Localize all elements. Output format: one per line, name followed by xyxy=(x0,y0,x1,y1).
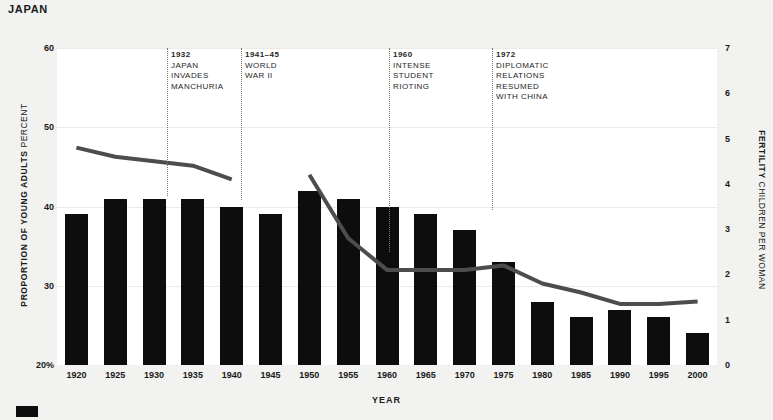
x-tick-1925: 1925 xyxy=(105,370,125,380)
y-tick-left-50: 50 xyxy=(12,122,54,132)
event-marker-1960 xyxy=(389,48,390,252)
x-tick-1940: 1940 xyxy=(222,370,242,380)
event-text: WORLD WAR II xyxy=(245,61,277,81)
y-tick-right-0: 0 xyxy=(725,360,745,370)
x-tick-1990: 1990 xyxy=(610,370,630,380)
x-tick-1950: 1950 xyxy=(299,370,319,380)
y-axis-right-title: FERTILITY CHILDREN PER WOMAN xyxy=(757,85,767,335)
y-tick-right-4: 4 xyxy=(725,179,745,189)
fertility-line-segment-postwar xyxy=(309,175,697,304)
x-tick-2000: 2000 xyxy=(688,370,708,380)
fertility-line-series xyxy=(57,48,717,365)
y-tick-right-6: 6 xyxy=(725,88,745,98)
x-axis-title: YEAR xyxy=(0,395,773,405)
x-tick-1960: 1960 xyxy=(377,370,397,380)
plot-area xyxy=(57,48,717,365)
x-tick-1920: 1920 xyxy=(66,370,86,380)
event-marker-1932 xyxy=(167,48,168,196)
y-axis-right-title-main: FERTILITY xyxy=(757,130,767,178)
x-tick-1995: 1995 xyxy=(649,370,669,380)
x-tick-1930: 1930 xyxy=(144,370,164,380)
fertility-line-segment-prewar xyxy=(76,148,231,180)
y-tick-left-40: 40 xyxy=(12,202,54,212)
event-year: 1941–45 xyxy=(245,50,279,61)
event-label-1932: 1932JAPAN INVADES MANCHURIA xyxy=(171,50,224,92)
event-marker-1941 xyxy=(241,48,242,200)
event-label-1960: 1960INTENSE STUDENT RIOTING xyxy=(393,50,434,92)
event-label-1972: 1972DIPLOMATIC RELATIONS RESUMED WITH CH… xyxy=(496,50,549,103)
y-tick-right-1: 1 xyxy=(725,315,745,325)
event-label-1941: 1941–45WORLD WAR II xyxy=(245,50,279,82)
x-tick-1945: 1945 xyxy=(261,370,281,380)
event-text: JAPAN INVADES MANCHURIA xyxy=(171,61,224,91)
y-tick-left-60: 60 xyxy=(12,43,54,53)
page-title: JAPAN xyxy=(8,3,48,15)
chart-root: JAPAN PROPORTION OF YOUNG ADULTS PERCENT… xyxy=(0,0,773,420)
y-axis-right-title-sub: CHILDREN PER WOMAN xyxy=(757,182,767,290)
x-tick-1965: 1965 xyxy=(416,370,436,380)
event-year: 1932 xyxy=(171,50,224,61)
event-year: 1972 xyxy=(496,50,549,61)
event-text: INTENSE STUDENT RIOTING xyxy=(393,61,434,91)
y-tick-right-5: 5 xyxy=(725,134,745,144)
y-tick-left-30: 30 xyxy=(12,281,54,291)
x-tick-1970: 1970 xyxy=(455,370,475,380)
event-year: 1960 xyxy=(393,50,434,61)
event-text: DIPLOMATIC RELATIONS RESUMED WITH CHINA xyxy=(496,61,549,102)
y-tick-right-7: 7 xyxy=(725,43,745,53)
x-tick-1955: 1955 xyxy=(338,370,358,380)
y-tick-right-3: 3 xyxy=(725,224,745,234)
legend-swatch-bars xyxy=(16,406,38,417)
y-tick-left-20: 20% xyxy=(12,360,54,370)
x-tick-1985: 1985 xyxy=(571,370,591,380)
x-tick-1975: 1975 xyxy=(493,370,513,380)
x-tick-1980: 1980 xyxy=(532,370,552,380)
y-tick-right-2: 2 xyxy=(725,269,745,279)
event-marker-1972 xyxy=(492,48,493,210)
x-tick-1935: 1935 xyxy=(183,370,203,380)
